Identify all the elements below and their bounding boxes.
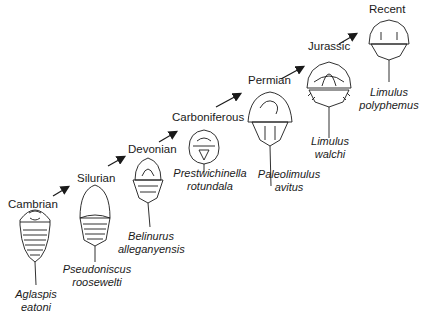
species-label-aglaspis-eatoni: Aglaspis eatoni [10,288,62,314]
fossil-aglaspis-eatoni [20,210,50,285]
species-name: avitus [254,181,324,194]
arrow-silurian-devonian [108,157,124,166]
genus-name: Aglaspis [10,288,62,301]
species-name: alleganyensis [118,243,184,256]
species-label-limulus-polyphemus: Limulus polyphemus [358,86,420,112]
species-name: rotundala [170,180,250,193]
species-name: polyphemus [358,99,420,112]
arrow-carboniferous-permian [216,94,240,107]
species-name: eatoni [10,301,62,314]
era-label-cambrian: Cambrian [8,198,58,210]
genus-name: Limulus [358,86,420,99]
fossil-limulus-polyphemus [369,20,409,82]
species-label-limulus-walchi: Limulus walchi [305,135,355,161]
species-name: walchi [305,148,355,161]
fossil-belinurus-alleganyensis [133,158,163,227]
fossil-prestwichinella-rotundala [189,130,219,172]
species-label-prestwichinella-rotundala: Prestwichinella rotundala [170,167,250,193]
era-label-carboniferous: Carboniferous [172,111,244,123]
species-label-pseudoniscus-roosewelti: Pseudoniscus roosewelti [62,263,132,289]
genus-name: Pseudoniscus [62,263,132,276]
era-label-jurassic: Jurassic [308,40,350,52]
era-label-silurian: Silurian [77,172,115,184]
fossil-pseudoniscus-roosewelti [80,185,110,262]
era-label-devonian: Devonian [128,143,177,155]
genus-name: Prestwichinella [170,167,250,180]
genus-name: Belinurus [118,230,184,243]
fossil-limulus-walchi [307,62,351,138]
era-label-permian: Permian [248,74,291,86]
genus-name: Limulus [305,135,355,148]
genus-name: Paleolimulus [254,168,324,181]
arrow-cambrian-silurian [53,187,68,196]
species-label-paleolimulus-avitus: Paleolimulus avitus [254,168,324,194]
species-label-belinurus-alleganyensis: Belinurus alleganyensis [118,230,184,256]
species-name: roosewelti [62,276,132,289]
era-label-recent: Recent [369,3,405,15]
arrow-devonian-carboniferous [159,132,176,142]
